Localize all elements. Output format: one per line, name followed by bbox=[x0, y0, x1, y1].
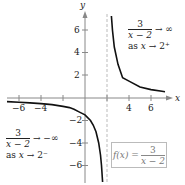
fraction-numerator: 3 bbox=[141, 145, 165, 156]
as-text: as bbox=[128, 41, 141, 51]
fraction-denominator: x − 2 bbox=[128, 30, 152, 40]
annotation-right-limit: 3 x − 2 → ∞ as x → 2⁺ bbox=[128, 19, 173, 51]
approach-text: → 2⁺ bbox=[146, 41, 170, 51]
fraction-numerator: 3 bbox=[6, 128, 30, 139]
y-tick-label: −6 bbox=[69, 160, 82, 170]
x-tick-label: −4 bbox=[34, 103, 47, 113]
x-tick-label: 4 bbox=[126, 103, 132, 113]
function-lhs: f(x) = bbox=[113, 150, 139, 160]
x-axis-arrow-icon bbox=[166, 96, 173, 101]
function-label-box: f(x) = 3 x − 2 bbox=[111, 142, 167, 168]
y-tick-label: −2 bbox=[69, 115, 82, 125]
y-axis-label: y bbox=[80, 0, 85, 10]
fraction-denominator: x − 2 bbox=[6, 139, 30, 149]
y-tick-label: −4 bbox=[69, 138, 82, 148]
annotation-left-limit: 3 x − 2 → −∞ as x → 2⁻ bbox=[6, 128, 58, 160]
limit-arrow: → ∞ bbox=[155, 24, 173, 34]
approach-text: → 2⁻ bbox=[24, 150, 48, 160]
fraction: 3 x − 2 bbox=[6, 128, 30, 149]
y-tick-label: 6 bbox=[74, 25, 80, 35]
limit-arrow: → −∞ bbox=[33, 133, 58, 143]
fraction: 3 x − 2 bbox=[128, 19, 152, 40]
y-tick-label: 4 bbox=[74, 47, 80, 57]
as-text: as bbox=[6, 150, 19, 160]
y-axis-arrow-icon bbox=[83, 11, 88, 18]
fraction: 3 x − 2 bbox=[141, 145, 165, 166]
fraction-numerator: 3 bbox=[128, 19, 152, 30]
fraction-denominator: x − 2 bbox=[141, 156, 165, 166]
x-tick-label: −6 bbox=[12, 103, 25, 113]
y-tick-label: 2 bbox=[74, 70, 80, 80]
x-axis-label: x bbox=[175, 93, 180, 103]
x-tick-label: 6 bbox=[148, 103, 154, 113]
